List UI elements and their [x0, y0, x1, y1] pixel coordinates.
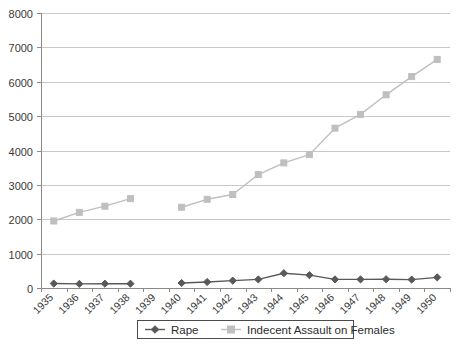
data-point-marker: [332, 125, 338, 131]
y-axis-tick-label: 8000: [9, 8, 33, 20]
y-axis-tick-label: 2000: [9, 214, 33, 226]
data-point-marker: [281, 160, 287, 166]
y-axis-tick-label: 7000: [9, 42, 33, 54]
chart-canvas: 010002000300040005000600070008000 193519…: [0, 0, 457, 344]
data-point-marker: [255, 172, 261, 178]
data-point-marker: [383, 92, 389, 98]
y-axis-tick-label: 6000: [9, 77, 33, 89]
data-point-marker: [204, 196, 210, 202]
legend-item-label: Indecent Assault on Females: [247, 324, 395, 336]
data-point-marker: [51, 218, 57, 224]
y-axis-tick-label: 5000: [9, 111, 33, 123]
y-axis-tick-label: 4000: [9, 146, 33, 158]
data-point-marker: [127, 196, 133, 202]
data-point-marker: [306, 152, 312, 158]
line-chart: 010002000300040005000600070008000 193519…: [0, 0, 457, 344]
legend-item-label: Rape: [171, 324, 199, 336]
data-point-marker: [102, 203, 108, 209]
data-point-marker: [434, 56, 440, 62]
y-axis-tick-label: 3000: [9, 180, 33, 192]
chart-background: [0, 0, 457, 344]
data-point-marker: [230, 192, 236, 198]
data-point-marker: [358, 111, 364, 117]
data-point-marker: [179, 204, 185, 210]
data-point-marker: [76, 209, 82, 215]
legend-item[interactable]: Indecent Assault on Females: [221, 324, 395, 336]
legend-marker-swatch: [228, 326, 235, 333]
y-axis-tick-label: 1000: [9, 249, 33, 261]
data-point-marker: [409, 74, 415, 80]
y-axis-tick-label: 0: [27, 283, 33, 295]
y-axis-tick-labels: 010002000300040005000600070008000: [9, 8, 33, 295]
